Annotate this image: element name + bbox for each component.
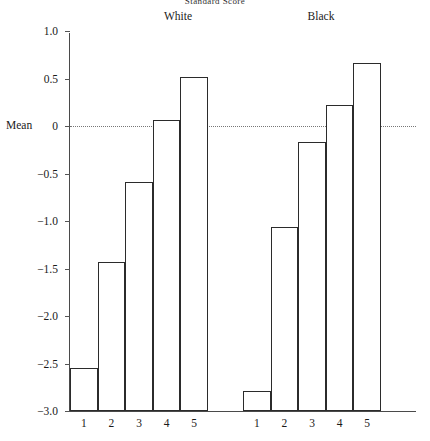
chart-title: Standard Score xyxy=(0,0,430,5)
bar-black-1 xyxy=(243,391,271,411)
y-tick-label: 1.0 xyxy=(44,25,58,37)
y-tick-label: −0.5 xyxy=(37,168,58,180)
y-tick xyxy=(65,411,70,412)
x-axis-line xyxy=(69,411,416,412)
x-tick-label: 3 xyxy=(302,417,322,429)
bar-white-5 xyxy=(180,77,208,411)
bar-black-2 xyxy=(271,227,299,411)
bar-black-3 xyxy=(298,142,326,411)
x-tick-label: 5 xyxy=(357,417,377,429)
bar-black-4 xyxy=(326,105,354,411)
bar-white-2 xyxy=(98,262,126,411)
y-tick-label: 0 xyxy=(52,120,58,132)
x-tick-label: 5 xyxy=(184,417,204,429)
chart-container: Standard Score White Black Mean 1.00.50−… xyxy=(0,0,430,441)
x-tick-label: 2 xyxy=(101,417,121,429)
y-axis-label: Mean xyxy=(6,119,32,131)
group-label-white: White xyxy=(148,10,208,22)
bar-white-4 xyxy=(153,120,181,411)
y-tick xyxy=(65,31,70,32)
y-tick-label: −2.5 xyxy=(37,358,58,370)
x-tick-label: 4 xyxy=(330,417,350,429)
x-tick-label: 4 xyxy=(157,417,177,429)
y-tick-label: −2.0 xyxy=(37,310,58,322)
y-tick-label: −1.5 xyxy=(37,263,58,275)
bar-white-3 xyxy=(125,182,153,411)
x-tick-label: 3 xyxy=(129,417,149,429)
bar-white-1 xyxy=(70,368,98,411)
group-label-black: Black xyxy=(291,10,351,22)
bar-black-5 xyxy=(353,63,381,411)
x-tick-label: 1 xyxy=(247,417,267,429)
x-tick-label: 2 xyxy=(274,417,294,429)
plot-area xyxy=(70,33,415,411)
y-tick-label: 0.5 xyxy=(44,73,58,85)
y-tick-label: −3.0 xyxy=(37,405,58,417)
y-tick-label: −1.0 xyxy=(37,215,58,227)
x-tick-label: 1 xyxy=(74,417,94,429)
